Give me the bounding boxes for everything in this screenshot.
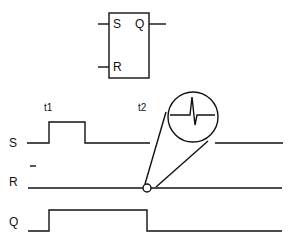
q-waveform: [28, 210, 282, 231]
flipflop-q-label: Q: [135, 17, 144, 31]
s-signal-label: S: [9, 136, 17, 150]
magnifier-circle: [168, 92, 218, 142]
t1-label: t1: [44, 102, 53, 113]
magnifier-line-right: [156, 141, 208, 187]
flipflop-timing-diagram: S R Q t1 t2 S R Q: [0, 0, 292, 243]
t2-label: t2: [138, 102, 147, 113]
q-signal-label: Q: [9, 215, 18, 229]
flipflop-s-label: S: [113, 17, 121, 31]
flipflop-r-label: R: [113, 60, 122, 74]
s-waveform: [27, 122, 150, 143]
glitch-marker-circle: [143, 184, 151, 192]
magnifier-line-left: [145, 112, 166, 184]
r-signal-label: R: [9, 175, 18, 189]
